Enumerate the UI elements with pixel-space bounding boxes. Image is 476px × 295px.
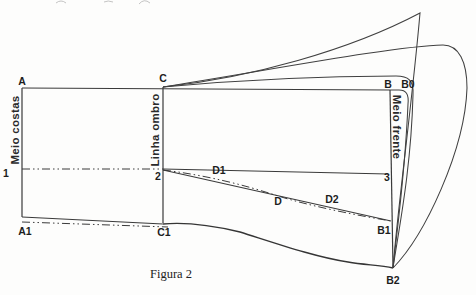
point-label-B0: B0 bbox=[401, 78, 415, 90]
point-label-B2: B2 bbox=[386, 274, 400, 286]
point-label-A: A bbox=[18, 75, 26, 87]
point-label-C1: C1 bbox=[157, 226, 171, 238]
point-label-B: B bbox=[384, 78, 392, 90]
top-edge-artifact bbox=[56, 1, 66, 3]
center-back-label: Meio costas bbox=[9, 95, 21, 164]
point-label-B1: B1 bbox=[377, 224, 391, 236]
pivot-curve-outer-petal bbox=[163, 45, 467, 268]
pattern-diagram-figure: A C B B0 1 2 3 A1 C1 B1 B2 D1 D D2 Meio … bbox=[0, 0, 476, 295]
center-front-label: Meio frente bbox=[391, 95, 403, 160]
point-label-1: 1 bbox=[3, 167, 9, 179]
top-edge-artifact bbox=[139, 1, 150, 4]
figure-caption: Figura 2 bbox=[150, 267, 192, 281]
point-label-D2: D2 bbox=[325, 193, 339, 205]
point-label-D: D bbox=[274, 195, 282, 207]
top-construction-line bbox=[22, 88, 390, 90]
pattern-draft-canvas: A C B B0 1 2 3 A1 C1 B1 B2 D1 D D2 Meio … bbox=[0, 0, 476, 295]
shoulder-line-label: Linha ombro bbox=[149, 94, 161, 167]
point-label-3: 3 bbox=[384, 171, 390, 183]
guide-line-2-3 bbox=[163, 169, 388, 174]
point-label-A1: A1 bbox=[18, 225, 32, 237]
top-edge-artifact bbox=[104, 1, 113, 2]
point-label-D1: D1 bbox=[212, 164, 226, 176]
point-label-C: C bbox=[159, 72, 167, 84]
hem-sweep-curve-C1-B2 bbox=[163, 223, 393, 268]
point-label-2: 2 bbox=[155, 170, 161, 182]
